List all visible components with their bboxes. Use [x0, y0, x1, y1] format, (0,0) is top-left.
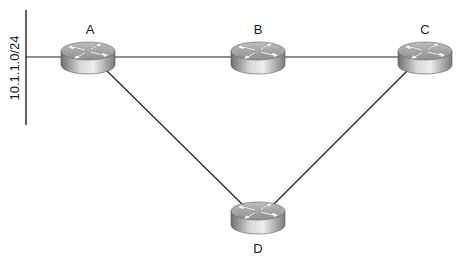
link-a-d: [104, 68, 244, 206]
network-diagram: 10.1.1.0/24 A B C D: [0, 0, 457, 263]
segment-label: 10.1.1.0/24: [7, 35, 22, 100]
router-b[interactable]: B: [231, 22, 285, 74]
router-icon: [231, 42, 285, 74]
router-b-label: B: [254, 22, 263, 37]
router-a[interactable]: A: [61, 22, 115, 74]
router-icon: [61, 42, 115, 74]
router-d[interactable]: D: [231, 202, 285, 256]
router-a-label: A: [86, 22, 95, 37]
router-c-label: C: [420, 22, 429, 37]
router-icon: [398, 42, 452, 74]
router-c[interactable]: C: [398, 22, 452, 74]
router-icon: [231, 202, 285, 234]
link-c-d: [272, 68, 410, 206]
router-d-label: D: [253, 241, 262, 256]
